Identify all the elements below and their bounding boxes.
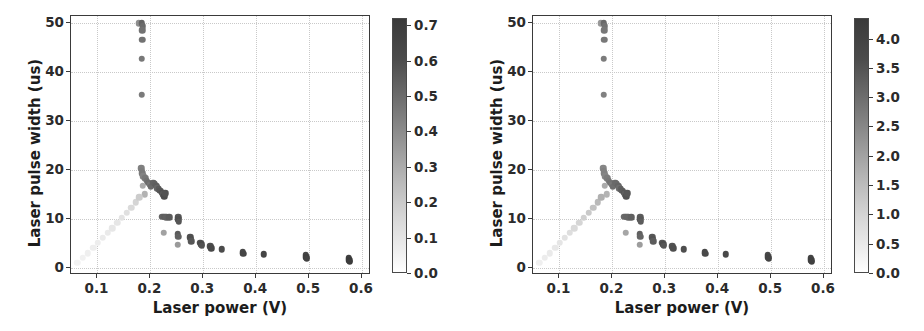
- x-tick-mark: [823, 274, 824, 278]
- scatter-point: [637, 234, 644, 241]
- scatter-point: [722, 251, 729, 258]
- y-tick-label: 10: [45, 210, 64, 226]
- colorbar-left: [392, 18, 407, 273]
- scatter-point: [637, 241, 644, 248]
- y-tick-label: 20: [45, 161, 64, 177]
- x-tick-label: 0.6: [811, 280, 835, 296]
- x-tick-label: 0.3: [190, 280, 214, 296]
- scatter-point: [139, 55, 146, 62]
- colorbar-tick-label: 0.7: [414, 17, 438, 33]
- x-tick-label: 0.4: [243, 280, 267, 296]
- colorbar-tick-label: 0.2: [414, 194, 438, 210]
- colorbar-tick-label: 3.5: [876, 60, 900, 76]
- y-tick-label: 20: [507, 161, 526, 177]
- scatter-point: [139, 37, 146, 44]
- colorbar-tick-label: 0.0: [414, 265, 438, 281]
- colorbar-right: [854, 18, 869, 273]
- x-tick-label: 0.6: [349, 280, 373, 296]
- x-tick-mark: [558, 274, 559, 278]
- y-tick-mark: [528, 218, 532, 219]
- colorbar-tick-label: 0.4: [414, 123, 438, 139]
- x-tick-label: 0.2: [599, 280, 623, 296]
- colorbar-tick-mark: [407, 96, 411, 97]
- colorbar-tick-label: 4.0: [876, 31, 900, 47]
- colorbar-tick-mark: [869, 244, 873, 245]
- x-axis-label-left: Laser power (V): [70, 299, 370, 317]
- plot-area-right: [532, 15, 832, 274]
- y-tick-label: 0: [517, 259, 526, 275]
- scatter-point: [601, 27, 608, 34]
- x-tick-mark: [664, 274, 665, 278]
- colorbar-tick-label: 0.5: [414, 88, 438, 104]
- scatter-point: [85, 250, 92, 257]
- y-tick-mark: [66, 71, 70, 72]
- scatter-point: [601, 37, 608, 44]
- y-tick-mark: [528, 71, 532, 72]
- y-tick-mark: [66, 120, 70, 121]
- chart-panel-left: 0.10.20.30.40.50.6 01020304050 Laser pow…: [0, 0, 462, 331]
- x-tick-mark: [717, 274, 718, 278]
- scatter-point: [188, 238, 195, 245]
- scatter-point: [601, 91, 608, 98]
- colorbar-tick-label: 1.0: [876, 206, 900, 222]
- scatter-point: [602, 182, 609, 189]
- scatter-point: [598, 194, 605, 201]
- scatter-points-right: [533, 16, 831, 273]
- scatter-point: [139, 91, 146, 98]
- y-tick-mark: [66, 22, 70, 23]
- x-tick-label: 0.5: [758, 280, 782, 296]
- x-tick-mark: [770, 274, 771, 278]
- x-tick-mark: [308, 274, 309, 278]
- colorbar-tick-label: 0.5: [876, 236, 900, 252]
- colorbar-tick-mark: [407, 273, 411, 274]
- colorbar-tick-mark: [407, 25, 411, 26]
- colorbar-tick-mark: [407, 131, 411, 132]
- y-axis-label-left: Laser pulse width (us): [26, 23, 44, 283]
- scatter-point: [601, 55, 608, 62]
- scatter-point: [304, 256, 311, 263]
- scatter-point: [166, 214, 173, 221]
- scatter-point: [624, 190, 631, 197]
- scatter-point: [660, 242, 667, 249]
- colorbar-tick-mark: [407, 238, 411, 239]
- y-tick-mark: [66, 218, 70, 219]
- scatter-point: [219, 246, 226, 253]
- x-tick-mark: [149, 274, 150, 278]
- x-tick-mark: [96, 274, 97, 278]
- x-tick-label: 0.5: [296, 280, 320, 296]
- colorbar-tick-mark: [869, 156, 873, 157]
- scatter-point: [347, 259, 354, 266]
- colorbar-tick-label: 3.0: [876, 89, 900, 105]
- colorbar-tick-mark: [869, 68, 873, 69]
- x-tick-mark: [611, 274, 612, 278]
- colorbar-tick-mark: [407, 167, 411, 168]
- scatter-point: [139, 27, 146, 34]
- colorbar-tick-label: 0.3: [414, 159, 438, 175]
- y-tick-mark: [66, 267, 70, 268]
- y-tick-label: 10: [507, 210, 526, 226]
- scatter-point: [198, 242, 205, 249]
- y-tick-mark: [528, 169, 532, 170]
- figure-canvas: 0.10.20.30.40.50.6 01020304050 Laser pow…: [0, 0, 924, 331]
- y-tick-label: 30: [45, 112, 64, 128]
- x-tick-label: 0.1: [546, 280, 570, 296]
- scatter-point: [650, 238, 657, 245]
- y-tick-label: 40: [45, 63, 64, 79]
- scatter-point: [208, 245, 215, 252]
- y-tick-label: 50: [45, 14, 64, 30]
- colorbar-tick-mark: [869, 126, 873, 127]
- colorbar-tick-mark: [869, 214, 873, 215]
- scatter-point: [140, 182, 147, 189]
- scatter-point: [809, 259, 816, 266]
- x-tick-label: 0.2: [137, 280, 161, 296]
- x-axis-label-right: Laser power (V): [532, 299, 832, 317]
- x-tick-mark: [255, 274, 256, 278]
- scatter-point: [175, 241, 182, 248]
- y-tick-label: 40: [507, 63, 526, 79]
- x-tick-label: 0.3: [652, 280, 676, 296]
- scatter-point: [622, 230, 629, 237]
- colorbar-tick-mark: [869, 185, 873, 186]
- y-tick-mark: [528, 22, 532, 23]
- y-axis-label-right: Laser pulse width (us): [488, 23, 506, 283]
- y-tick-mark: [66, 169, 70, 170]
